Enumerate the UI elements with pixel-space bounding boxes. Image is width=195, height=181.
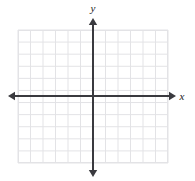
graph-canvas: x y bbox=[0, 0, 195, 181]
coordinate-plane-figure: x y bbox=[0, 0, 195, 181]
x-axis-label: x bbox=[179, 90, 185, 102]
y-axis-label: y bbox=[90, 2, 96, 14]
